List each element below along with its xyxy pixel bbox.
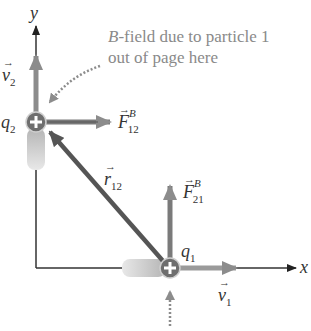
b-field-annotation: B-field due to particle 1 out of page he… <box>108 26 269 68</box>
r12-arrow <box>50 132 163 261</box>
particle-q1 <box>160 258 180 278</box>
q2-motion-trail <box>27 128 45 170</box>
f12-label: FB12 <box>118 112 139 135</box>
v2-label: v2 <box>2 66 16 88</box>
b-field-pointer-arrow <box>50 66 100 102</box>
q1-label: q1 <box>181 242 196 264</box>
v1-label: v1 <box>218 286 232 308</box>
q2-label: q2 <box>1 113 16 135</box>
f21-label: FB21 <box>183 182 204 205</box>
particle-q2 <box>26 112 46 132</box>
y-axis-label: y <box>30 4 38 22</box>
r12-label: r12 <box>104 170 122 192</box>
x-axis-label: x <box>300 258 308 276</box>
